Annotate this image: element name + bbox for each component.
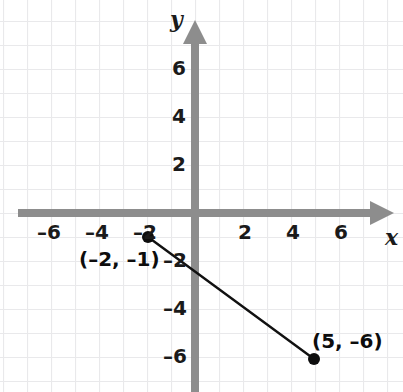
y-tick-label-neg6: –6 — [163, 346, 187, 366]
y-tick-label-2: 2 — [172, 154, 186, 174]
x-tick-label-neg2: –2 — [133, 222, 157, 242]
x-tick-label-neg4: –4 — [85, 222, 109, 242]
x-tick-label-neg6: –6 — [37, 222, 61, 242]
y-tick-label-neg4: –4 — [163, 298, 187, 318]
x-axis-label: x — [385, 226, 398, 248]
y-tick-label-4: 4 — [172, 106, 186, 126]
x-tick-label-6: 6 — [334, 222, 348, 242]
coordinate-plane-figure: –6 –4 –2 2 4 6 6 4 2 –2 –4 –6 x y (–2, –… — [0, 0, 403, 392]
data-point-2 — [308, 353, 320, 365]
y-tick-label-neg2: –2 — [163, 250, 187, 270]
y-tick-label-6: 6 — [172, 58, 186, 78]
y-axis-label: y — [170, 8, 183, 30]
x-tick-label-2: 2 — [238, 222, 252, 242]
x-tick-label-4: 4 — [286, 222, 300, 242]
point-label-b: (5, –6) — [312, 331, 383, 351]
point-label-a: (–2, –1) — [79, 249, 160, 269]
